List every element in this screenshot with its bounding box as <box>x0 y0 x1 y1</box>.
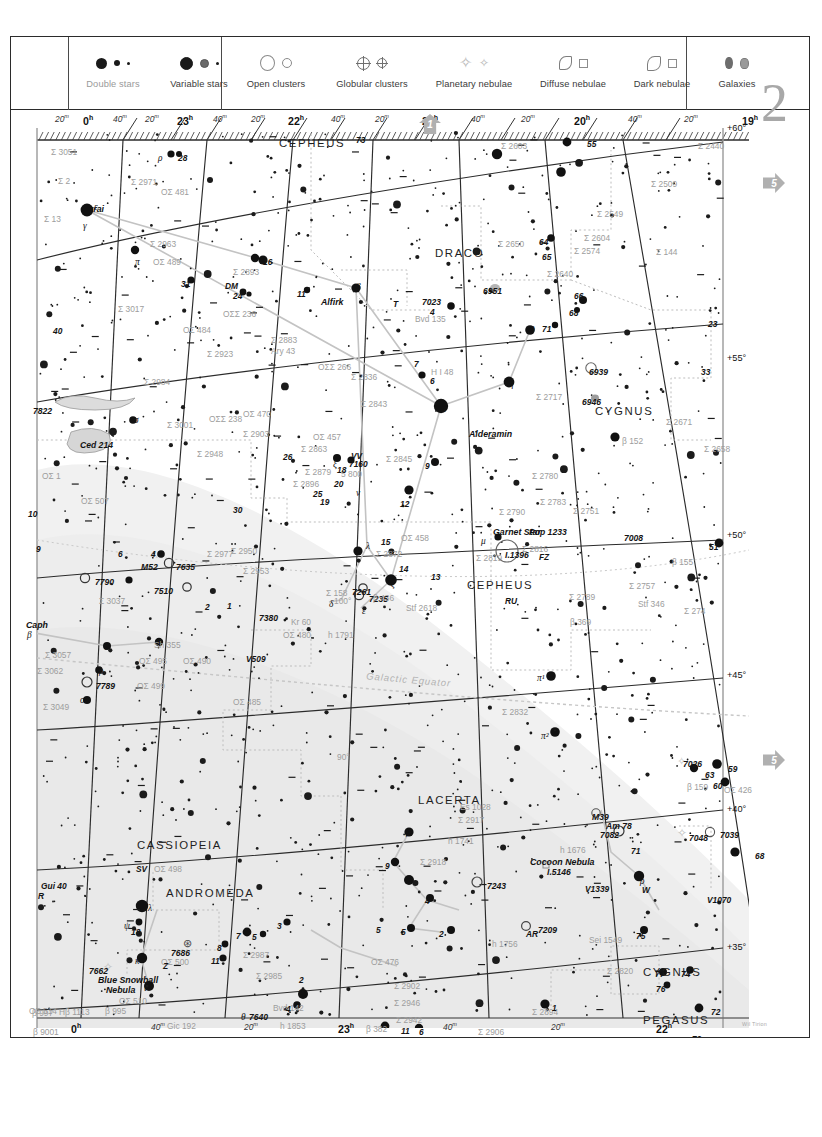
double-star-label: Σ 3049 <box>43 703 69 711</box>
named-star-label: Cocoon Nebula <box>530 858 595 867</box>
flamsteed-number-label: 33 <box>701 368 710 376</box>
ra-tick-label: 23h <box>177 114 193 126</box>
greek-letter-label: β <box>406 828 411 837</box>
ra-tick-label: 20h <box>574 114 590 126</box>
double-star-label: Σ 2549 <box>597 210 623 218</box>
double-star-label: Σ 2893 <box>233 268 259 276</box>
constellation-label: CYGNUS <box>643 967 701 978</box>
greek-letter-label: γ <box>83 222 87 231</box>
variable-star-label: V1070 <box>707 896 731 904</box>
flamsteed-number-label: 60 <box>713 782 722 790</box>
named-star-label: Alderamin <box>469 430 512 439</box>
named-star-label: Nebula <box>106 986 135 995</box>
ngc-label: 6939 <box>589 368 608 377</box>
flamsteed-number-label: 63 <box>705 771 714 779</box>
ngc-label: 7380 <box>259 614 278 623</box>
flamsteed-number-label: 3 <box>277 922 282 930</box>
double-star-label: ΟΣ 1 <box>42 472 61 480</box>
double-star-label: ΟΣΣ 266 <box>318 363 351 371</box>
greek-letter-label: ι <box>144 984 147 993</box>
dec-tick-label: +50° <box>727 531 746 540</box>
greek-letter-label: λ <box>148 904 152 913</box>
double-star-label: ΟΣΣ 236 <box>223 310 256 318</box>
double-star-label: Gic 192 <box>167 1022 196 1030</box>
double-star-label: Σ 2845 <box>386 455 412 463</box>
flamsteed-number-label: 11 <box>297 290 306 298</box>
greek-letter-label: ψ <box>124 922 130 931</box>
double-star-label: β 9001 <box>33 1028 59 1036</box>
star-chart-page: Double stars Variable stars Open cluster… <box>0 0 822 1137</box>
ngc-label: 7640 <box>249 1013 268 1022</box>
flamsteed-number-label: 18 <box>337 466 346 474</box>
double-star-label: Σ 2 <box>58 177 70 185</box>
greek-letter-label: θ <box>530 326 535 335</box>
greek-letter-label: δ <box>329 600 333 609</box>
double-star-label: ΟΣ 458 <box>401 534 429 542</box>
svg-text:✧: ✧ <box>677 826 687 840</box>
double-star-label: Σ 2717 <box>536 393 562 401</box>
dec-tick-label: +45° <box>727 671 746 680</box>
ngc-label: Pop 1233 <box>529 528 567 537</box>
flamsteed-number-label: 13 <box>431 573 440 581</box>
double-star-label: Σ 2790 <box>499 508 525 516</box>
double-star-label: ΟΣ 495 <box>139 657 167 665</box>
double-star-label: Σ 3037 <box>99 597 125 605</box>
double-star-label: Σ 2604 <box>584 234 610 242</box>
greek-letter-label: ν <box>356 489 360 498</box>
galactic-marker-label: 100° <box>334 597 351 605</box>
flamsteed-number-label: 73 <box>356 136 365 144</box>
double-star-label: ΟΣ 476 <box>371 958 399 966</box>
double-star-label: Σ 3062 <box>37 667 63 675</box>
flamsteed-number-label: 51 <box>709 543 718 551</box>
double-star-label: ΟΣ 426 <box>724 786 752 794</box>
flamsteed-number-label: 5 <box>401 928 406 936</box>
ngc-label: Am 78 <box>606 822 632 831</box>
double-star-label: Sei 1549 <box>589 936 622 944</box>
double-star-label: β 995 <box>105 1007 126 1015</box>
double-star-label: ΟΣ 484 <box>183 326 211 334</box>
flamsteed-number-label: 40 <box>53 327 62 335</box>
double-star-label: ΟΣ 480 <box>283 631 311 639</box>
flamsteed-number-label: 5 <box>252 933 257 941</box>
ngc-label: Ced 214 <box>80 441 113 450</box>
double-star-label: ΟΣ 510 <box>119 997 147 1005</box>
double-star-label: Σ 144 <box>656 248 677 256</box>
variable-star-label: R <box>38 892 44 900</box>
flamsteed-number-label: 4 <box>425 897 430 905</box>
double-star-label: Σ 2883 <box>271 336 297 344</box>
greek-letter-label: σ <box>134 416 139 425</box>
ngc-label: 7039 <box>720 831 739 840</box>
double-star-label: Sh 355 <box>154 641 181 649</box>
double-star-label: Σ 2950 <box>231 547 257 555</box>
double-star-label: ΟΣ 507 <box>81 497 109 505</box>
greek-letter-label: κ <box>135 957 140 966</box>
ngc-label: 7789 <box>96 682 115 691</box>
greek-letter-label: π¹ <box>537 674 545 683</box>
ra-tick-label: 40m <box>331 114 345 123</box>
double-star-label: Σ 2923 <box>207 350 233 358</box>
named-star-label: Alfirk <box>321 298 344 307</box>
double-star-label: β 155 <box>672 558 693 566</box>
variable-star-label: Gui 40 <box>41 882 67 890</box>
ra-tick-label: 40m <box>213 114 227 123</box>
flamsteed-number-label: 68 <box>755 852 764 860</box>
double-star-label: h 1741 <box>448 837 474 845</box>
flamsteed-number-label: 11 <box>401 1027 410 1035</box>
double-star-label: Σ 2843 <box>361 400 387 408</box>
flamsteed-number-label: 65 <box>542 253 551 261</box>
double-star-label: β 159 <box>687 783 708 791</box>
double-star-label: Σ 274 <box>684 607 705 615</box>
flamsteed-number-label: 19 <box>320 498 329 506</box>
dec-tick-label: +35° <box>727 943 746 952</box>
flamsteed-number-label: 79 <box>692 1035 701 1037</box>
ra-tick-label: 40m <box>471 114 485 123</box>
flamsteed-number-label: 8 <box>217 944 222 952</box>
ngc-label: 7510 <box>154 587 173 596</box>
double-star-label: Σ 2985 <box>256 972 282 980</box>
double-star-label: Σ 2902 <box>394 982 420 990</box>
flamsteed-number-label: 66 <box>574 292 583 300</box>
named-star-label: Blue Snowball <box>98 976 158 985</box>
flamsteed-number-label: 75 <box>636 932 645 940</box>
flamsteed-number-label: 2 <box>205 603 210 611</box>
double-star-label: Σ 2963 <box>150 240 176 248</box>
